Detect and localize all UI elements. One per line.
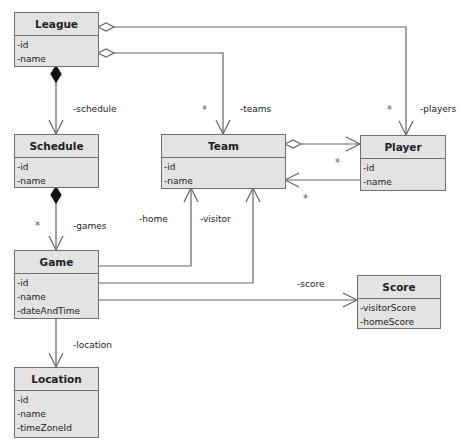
class-player[interactable]: Player -id -name [360,135,446,191]
class-attribute: -visitorScore [360,301,440,315]
role-label-score: -score [297,279,324,289]
class-attribute: -dateAndTime [17,304,98,318]
aggregation-diamond-icon [98,49,114,57]
role-label-home: -home [139,214,168,224]
role-label-visitor: -visitor [200,214,231,224]
class-title: Player [361,136,445,159]
multiplicity-players: * [387,104,392,115]
class-attribute: -name [17,290,98,304]
class-league[interactable]: League -id -name [14,12,99,67]
class-attribute: -id [164,160,285,174]
class-attribute: -timeZoneId [17,421,98,435]
class-schedule[interactable]: Schedule -id -name [14,134,99,188]
role-label-location: -location [73,340,112,350]
class-game[interactable]: Game -id -name -dateAndTime [14,250,99,319]
role-label-games: -games [73,221,106,231]
class-attribute: -id [17,276,98,290]
composition-diamond-icon [51,66,61,82]
class-attribute: -name [17,174,98,188]
multiplicity-games: * [35,220,40,231]
class-title: Schedule [15,135,98,158]
game-home-line [98,188,191,266]
role-label-players: -players [420,104,456,114]
class-attribute: -name [363,175,445,189]
class-attribute: -name [17,52,98,66]
league-teams-line [114,53,223,134]
class-attribute: -id [17,393,98,407]
class-attribute: -id [363,161,445,175]
class-title: Game [15,251,98,274]
class-title: League [15,13,98,36]
aggregation-diamond-icon [98,23,114,31]
league-players-line [114,27,406,135]
class-title: Score [358,276,440,299]
class-attribute: -id [17,160,98,174]
class-attribute: -name [164,174,285,188]
class-title: Location [15,368,98,391]
class-team[interactable]: Team -id -name [161,134,286,189]
class-attribute: -homeScore [360,315,440,329]
role-label-schedule: -schedule [73,104,117,114]
class-title: Team [162,135,285,158]
class-attribute: -name [17,407,98,421]
role-label-teams: -teams [240,104,271,114]
class-score[interactable]: Score -visitorScore -homeScore [357,275,441,329]
game-visitor-line [98,188,253,283]
multiplicity-player: * [335,157,340,168]
multiplicity-team: * [303,193,308,204]
aggregation-diamond-icon [285,140,301,148]
composition-diamond-icon [51,187,61,203]
multiplicity-teams: * [202,104,207,115]
class-attribute: -id [17,38,98,52]
class-location[interactable]: Location -id -name -timeZoneId [14,367,99,438]
